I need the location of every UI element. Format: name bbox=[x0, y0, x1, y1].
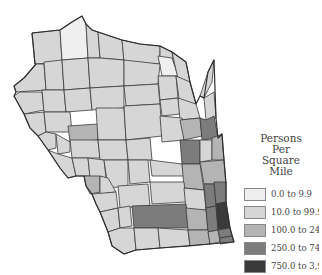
legend-label-1: 10.0 to 99.9 bbox=[271, 207, 319, 217]
county-clark bbox=[96, 108, 126, 140]
legend-item-1: 10.0 to 99.9 bbox=[244, 203, 322, 221]
county-rock bbox=[188, 230, 210, 246]
county-pierce bbox=[38, 132, 56, 150]
legend-swatch-2 bbox=[244, 224, 266, 237]
county-wood bbox=[98, 140, 128, 160]
county-barron bbox=[42, 90, 66, 112]
county-bayfield bbox=[60, 16, 88, 60]
county-outagamie bbox=[180, 118, 202, 140]
county-portage bbox=[126, 138, 152, 160]
county-lincoln bbox=[124, 84, 160, 106]
county-marathon bbox=[124, 104, 162, 140]
county-langlade bbox=[158, 76, 178, 100]
legend-swatch-0 bbox=[244, 188, 266, 201]
county-columbia bbox=[150, 182, 186, 204]
legend-label-0: 0.0 to 9.9 bbox=[271, 189, 319, 199]
county-sawyer bbox=[62, 58, 90, 90]
legend-title-line2: Square Mile bbox=[250, 155, 312, 177]
county-oneida bbox=[124, 60, 160, 86]
county-sheboygan bbox=[200, 160, 226, 184]
county-menominee bbox=[160, 98, 180, 116]
legend-item-4: 750.0 to 3,9 bbox=[244, 257, 322, 275]
county-adams bbox=[128, 160, 150, 184]
legend-title: Persons Per Square Mile bbox=[250, 133, 312, 177]
county-pepin bbox=[56, 134, 70, 154]
legend-label-2: 100.0 to 249.9 bbox=[271, 225, 319, 235]
county-ashland bbox=[86, 24, 100, 58]
legend-label-3: 250.0 to 749.9 bbox=[271, 243, 319, 253]
legend-swatch-3 bbox=[244, 242, 266, 255]
county-winnebago bbox=[180, 140, 200, 164]
legend-item-3: 250.0 to 749.9 bbox=[244, 239, 322, 257]
legend-item-2: 100.0 to 249.9 bbox=[244, 221, 322, 239]
county-eau-claire bbox=[70, 140, 100, 158]
county-dunn bbox=[44, 112, 72, 132]
county-dane bbox=[132, 204, 188, 228]
county-iowa bbox=[134, 228, 160, 250]
county-jackson bbox=[88, 158, 106, 178]
county-chippewa bbox=[68, 124, 98, 142]
legend-label-4: 750.0 to 3,9 bbox=[271, 261, 319, 271]
county-taylor bbox=[90, 86, 124, 110]
legend-title-line1: Persons Per bbox=[250, 133, 312, 155]
county-green bbox=[158, 228, 190, 248]
county-grant bbox=[108, 228, 136, 254]
legend-swatch-1 bbox=[244, 206, 266, 219]
county-douglas bbox=[32, 30, 62, 64]
county-richland bbox=[118, 206, 132, 228]
county-rusk bbox=[64, 88, 92, 112]
legend-swatch-4 bbox=[244, 260, 266, 273]
county-washburn bbox=[44, 60, 64, 90]
county-calumet bbox=[200, 140, 212, 162]
counties bbox=[14, 16, 234, 254]
legend: Persons Per Square Mile 0.0 to 9.9 10.0 … bbox=[244, 133, 322, 275]
county-sauk bbox=[118, 184, 150, 208]
legend-item-0: 0.0 to 9.9 bbox=[244, 185, 322, 203]
county-burnett bbox=[14, 64, 46, 92]
county-price bbox=[88, 58, 124, 88]
county-waushara bbox=[150, 160, 184, 176]
county-dodge bbox=[184, 188, 206, 210]
county-jefferson bbox=[186, 208, 208, 230]
county-ozaukee bbox=[214, 182, 226, 204]
